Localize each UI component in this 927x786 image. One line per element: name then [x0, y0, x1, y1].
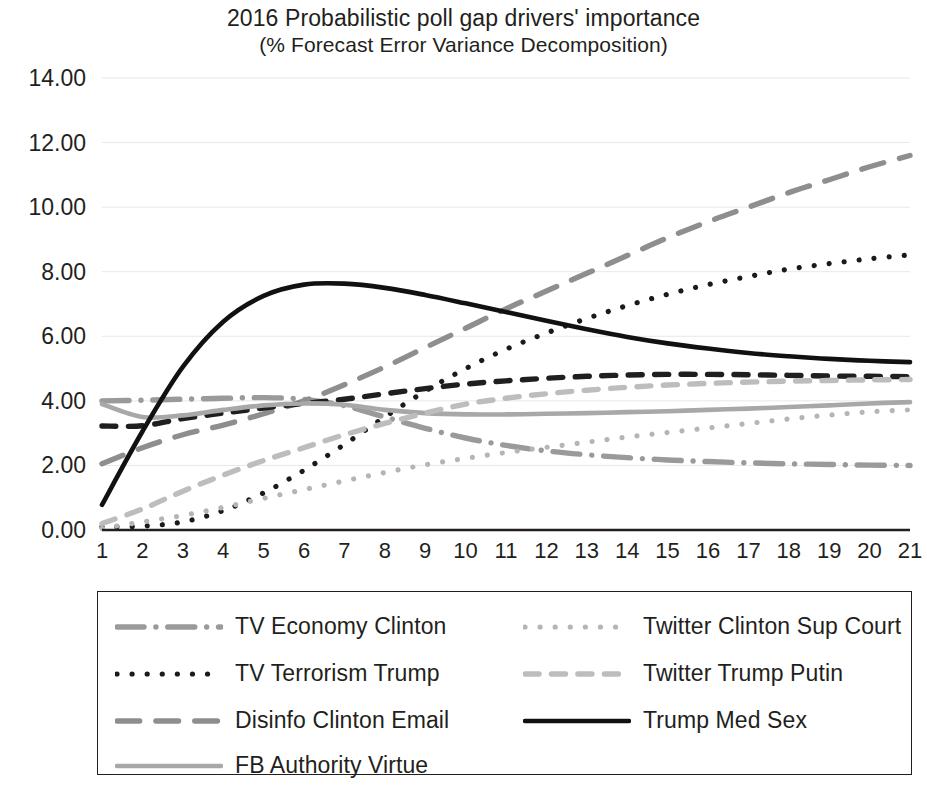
y-axis-tick-label: 0.00 — [41, 517, 86, 543]
x-axis-tick-label: 5 — [257, 538, 269, 563]
x-axis-tick-label: 16 — [696, 538, 720, 563]
legend-swatch-fb-authority-virtue — [115, 757, 223, 775]
series-line — [102, 402, 910, 418]
y-axis-tick-label: 12.00 — [28, 130, 86, 156]
x-axis-tick-label: 6 — [298, 538, 310, 563]
series-line — [102, 283, 910, 505]
y-axis-tick-label: 6.00 — [41, 323, 86, 349]
x-axis-tick-label: 3 — [177, 538, 189, 563]
x-axis-tick-label: 18 — [777, 538, 801, 563]
legend-item-tv-terrorism-trump[interactable]: TV Terrorism Trump — [98, 650, 506, 697]
x-axis-tick-label: 7 — [338, 538, 350, 563]
x-axis-tick-labels: 123456789101112131415161718192021 — [96, 538, 922, 563]
series-line — [102, 255, 910, 527]
y-axis-tick-label: 8.00 — [41, 259, 86, 285]
x-axis-tick-label: 1 — [96, 538, 108, 563]
legend-swatch-twitter-clinton-sup-court — [523, 618, 631, 636]
x-axis-tick-label: 9 — [419, 538, 431, 563]
y-axis-tick-labels: 0.002.004.006.008.0010.0012.0014.00 — [28, 65, 86, 543]
line-chart-svg: 0.002.004.006.008.0010.0012.0014.00 1234… — [0, 0, 927, 570]
x-axis-tick-label: 2 — [136, 538, 148, 563]
legend-label-twitter-clinton-sup-court: Twitter Clinton Sup Court — [643, 613, 901, 640]
y-axis-tick-label: 10.00 — [28, 194, 86, 220]
legend-swatch-tv-economy-clinton — [115, 618, 223, 636]
x-axis-tick-label: 19 — [817, 538, 841, 563]
legend-swatch-tv-terrorism-trump — [115, 665, 223, 683]
legend-item-disinfo-clinton-email[interactable]: Disinfo Clinton Email — [98, 697, 506, 744]
legend-label-trump-med-sex: Trump Med Sex — [643, 707, 807, 734]
legend-item-twitter-clinton-sup-court[interactable]: Twitter Clinton Sup Court — [506, 603, 913, 650]
legend-label-tv-terrorism-trump: TV Terrorism Trump — [235, 660, 440, 687]
gridlines — [102, 78, 910, 530]
x-axis-tick-label: 12 — [534, 538, 558, 563]
x-axis-tick-label: 10 — [453, 538, 477, 563]
legend-label-twitter-trump-putin: Twitter Trump Putin — [643, 660, 843, 687]
x-axis-tick-label: 21 — [898, 538, 922, 563]
y-axis-tick-label: 2.00 — [41, 452, 86, 478]
x-axis-tick-label: 13 — [575, 538, 599, 563]
series-lines — [102, 155, 910, 528]
legend-swatch-disinfo-clinton-email — [115, 712, 223, 730]
x-axis-tick-label: 17 — [736, 538, 760, 563]
legend-item-twitter-trump-putin[interactable]: Twitter Trump Putin — [506, 650, 913, 697]
y-axis-tick-label: 14.00 — [28, 65, 86, 91]
x-axis-tick-label: 8 — [379, 538, 391, 563]
x-axis-tick-label: 15 — [655, 538, 679, 563]
legend-label-tv-economy-clinton: TV Economy Clinton — [235, 613, 446, 640]
x-axis-tick-label: 20 — [857, 538, 881, 563]
x-axis-tick-label: 11 — [495, 538, 518, 563]
legend-item-trump-med-sex[interactable]: Trump Med Sex — [506, 697, 913, 744]
legend-item-fb-authority-virtue[interactable]: FB Authority Virtue — [98, 744, 506, 786]
chart-legend: TV Economy Clinton Twitter Clinton Sup C… — [97, 591, 912, 775]
legend-empty-slot — [506, 744, 913, 786]
x-axis-tick-label: 4 — [217, 538, 229, 563]
legend-label-fb-authority-virtue: FB Authority Virtue — [235, 752, 428, 779]
y-axis-tick-label: 4.00 — [41, 388, 86, 414]
legend-label-disinfo-clinton-email: Disinfo Clinton Email — [235, 707, 449, 734]
legend-swatch-twitter-trump-putin — [523, 665, 631, 683]
chart-plot-area: 0.002.004.006.008.0010.0012.0014.00 1234… — [0, 0, 927, 570]
legend-item-tv-economy-clinton[interactable]: TV Economy Clinton — [98, 603, 506, 650]
legend-swatch-trump-med-sex — [523, 712, 631, 730]
x-axis-tick-label: 14 — [615, 538, 639, 563]
